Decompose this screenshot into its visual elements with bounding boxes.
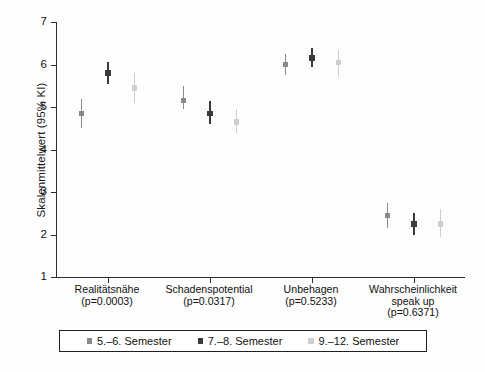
y-axis-tick: 6 (51, 65, 57, 66)
data-point-marker (411, 221, 416, 226)
legend-item: 9.–12. Semester (308, 335, 399, 347)
data-point-marker (438, 221, 443, 226)
x-axis-group-pvalue: (p=0.6371) (333, 307, 485, 319)
chart-figure: Skalenmittelwert (95% KI) 1234567 Realit… (0, 0, 485, 372)
legend-swatch-icon (198, 338, 203, 343)
y-axis-tick-label: 6 (41, 58, 47, 70)
data-point-marker (207, 111, 212, 116)
data-point-marker (105, 70, 110, 75)
y-axis-tick: 2 (51, 235, 57, 236)
y-axis-tick-label: 4 (41, 143, 47, 155)
y-axis-tick: 1 (51, 277, 57, 278)
plot-inner: 1234567 (57, 22, 465, 277)
y-axis-tick: 3 (51, 192, 57, 193)
plot-area: 1234567 (56, 22, 465, 278)
y-axis-tick-label: 5 (41, 100, 47, 112)
data-point-marker (79, 111, 84, 116)
legend-item-label: 5.–6. Semester (97, 335, 172, 347)
y-axis-tick: 7 (51, 22, 57, 23)
legend-swatch-icon (308, 338, 313, 343)
x-axis-group-name: Wahrscheinlichkeit (333, 284, 485, 296)
data-point-marker (181, 98, 186, 103)
x-axis-group-label: Wahrscheinlichkeitspeak up(p=0.6371) (333, 284, 485, 319)
data-point-marker (309, 55, 314, 60)
chart-legend: 5.–6. Semester7.–8. Semester9.–12. Semes… (59, 330, 427, 352)
legend-item-label: 7.–8. Semester (208, 335, 283, 347)
y-axis-tick-label: 2 (41, 228, 47, 240)
data-point-marker (336, 60, 341, 65)
legend-item-label: 9.–12. Semester (319, 335, 400, 347)
data-point-marker (132, 85, 137, 90)
data-point-marker (283, 62, 288, 67)
y-axis-tick-label: 1 (41, 270, 47, 282)
data-point-marker (234, 119, 239, 124)
y-axis-tick-label: 7 (41, 15, 47, 27)
y-axis-tick-label: 3 (41, 185, 47, 197)
legend-item: 7.–8. Semester (198, 335, 283, 347)
legend-item: 5.–6. Semester (87, 335, 172, 347)
y-axis-tick: 5 (51, 107, 57, 108)
data-point-marker (385, 213, 390, 218)
legend-swatch-icon (87, 338, 92, 343)
y-axis-tick: 4 (51, 150, 57, 151)
